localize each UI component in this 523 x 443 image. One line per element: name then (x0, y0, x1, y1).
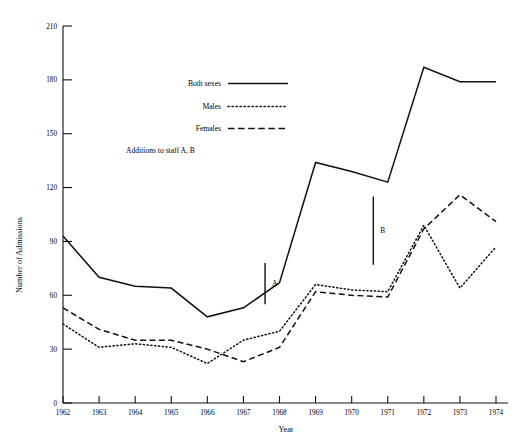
x-axis-tick-label: 1972 (417, 409, 432, 417)
staff-addition-marker-label-b: B (380, 226, 385, 235)
x-axis-tick-label: 1967 (236, 409, 251, 417)
legend-label-both-sexes: Both sexes (188, 79, 221, 88)
staff-addition-marker-label-a: A (272, 279, 278, 288)
x-axis-tick-label: 1964 (128, 409, 143, 417)
y-axis-tick-label: 90 (50, 238, 58, 246)
y-axis-tick-label: 120 (46, 184, 57, 192)
chart-legend: Both sexes Males Females Additions to st… (126, 79, 288, 155)
staff-addition-markers: AB (265, 197, 385, 305)
legend-label-females: Females (196, 124, 221, 133)
chart-figure: 0306090120150180210 19621963196419651966… (0, 0, 523, 443)
x-axis-tick-label: 1965 (164, 409, 179, 417)
y-axis-tick-label: 150 (46, 130, 57, 138)
axes (63, 26, 508, 403)
line-chart-canvas: 0306090120150180210 19621963196419651966… (0, 0, 523, 443)
y-axis-title: Number of Admissions (15, 217, 24, 293)
x-axis-tick-label: 1963 (92, 409, 107, 417)
x-axis-tick-label: 1962 (56, 409, 71, 417)
y-axis-ticks: 0306090120150180210 (46, 23, 72, 408)
x-axis-tick-label: 1969 (308, 409, 323, 417)
x-axis-tick-label: 1968 (272, 409, 287, 417)
x-axis-tick-label: 1974 (489, 409, 504, 417)
x-axis-tick-label: 1966 (200, 409, 215, 417)
y-axis-tick-label: 30 (50, 346, 58, 354)
y-axis-tick-label: 0 (53, 400, 57, 408)
x-axis-tick-label: 1970 (344, 409, 359, 417)
x-axis-title: Year (278, 425, 293, 434)
y-axis-tick-label: 210 (46, 23, 57, 31)
x-axis-tick-label: 1973 (453, 409, 468, 417)
x-axis-tick-label: 1971 (381, 409, 396, 417)
x-axis-ticks: 1962196319641965196619671968196919701971… (56, 396, 504, 417)
series-line-males (63, 225, 496, 363)
data-series-group (63, 67, 496, 363)
legend-note-staff-additions: Additions to staff A, B (126, 146, 195, 155)
series-line-both-sexes (63, 67, 496, 317)
series-line-females (63, 195, 496, 362)
legend-label-males: Males (202, 102, 221, 111)
y-axis-tick-label: 180 (46, 76, 57, 84)
y-axis-tick-label: 60 (50, 292, 58, 300)
